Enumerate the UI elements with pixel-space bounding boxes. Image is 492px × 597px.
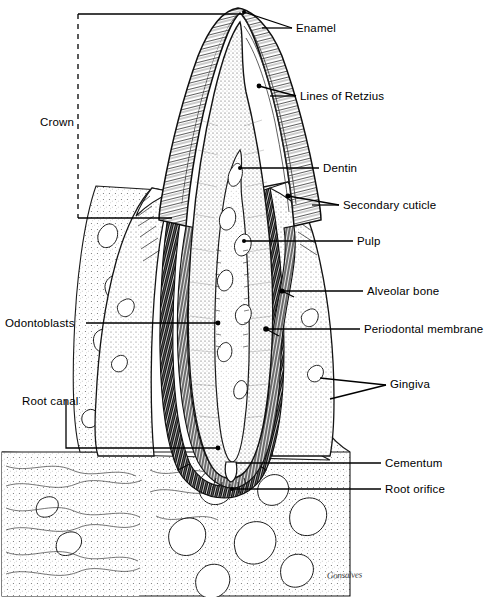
- label-cementum: Cementum: [385, 458, 442, 470]
- label-lines-of-retzius: Lines of Retzius: [300, 91, 384, 103]
- tooth-anatomy-illustration: [0, 0, 492, 597]
- label-dentin: Dentin: [323, 163, 357, 175]
- label-pulp: Pulp: [357, 236, 381, 248]
- label-root-orifice: Root orifice: [385, 484, 445, 496]
- label-periodontal-membrane: Periodontal membrane: [364, 324, 483, 336]
- label-enamel: Enamel: [296, 23, 336, 35]
- label-crown: Crown: [40, 117, 74, 129]
- artist-signature: Gonsalves: [327, 569, 362, 580]
- label-secondary-cuticle: Secondary cuticle: [343, 200, 436, 212]
- label-alveolar-bone: Alveolar bone: [367, 286, 439, 298]
- root-orifice-opening: [225, 462, 237, 482]
- label-odontoblasts: Odontoblasts: [5, 318, 75, 330]
- leader-gingiva-b: [330, 385, 386, 399]
- tooth-anatomy-figure: Enamel Lines of Retzius Dentin Secondary…: [0, 0, 492, 597]
- label-root-canal: Root canal: [22, 396, 78, 408]
- label-gingiva: Gingiva: [390, 379, 430, 391]
